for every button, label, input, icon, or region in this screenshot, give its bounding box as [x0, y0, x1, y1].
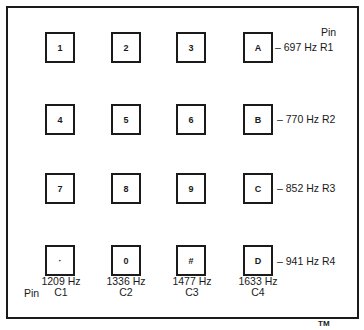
key-label: 1: [57, 43, 62, 53]
row-label-r1: – 697 Hz R1: [275, 42, 333, 53]
key-label: 2: [123, 43, 128, 53]
trademark: TM: [318, 319, 330, 328]
key-8: 8: [111, 173, 141, 204]
key-1: 1: [45, 32, 75, 63]
col-label-c3: 1477 Hz C3: [162, 276, 222, 298]
key-label: C: [255, 184, 262, 194]
row-label-r2: – 770 Hz R2: [277, 114, 335, 125]
key-label: 8: [123, 184, 128, 194]
key-3: 3: [176, 32, 206, 63]
key-label: D: [255, 256, 262, 266]
key-label: ·: [59, 256, 62, 266]
key-7: 7: [45, 173, 75, 204]
col-label-c1: 1209 Hz C1: [31, 276, 91, 298]
key-d: D: [243, 245, 273, 276]
key-label: 9: [188, 184, 193, 194]
key-2: 2: [111, 32, 141, 63]
col-pin: C1: [31, 287, 91, 298]
key-5: 5: [111, 104, 141, 135]
col-pin: C3: [162, 287, 222, 298]
key-label: 4: [57, 115, 62, 125]
key-4: 4: [45, 104, 75, 135]
col-pin: C4: [228, 287, 288, 298]
key-label: #: [188, 256, 193, 266]
key-label: A: [255, 43, 262, 53]
col-label-c4: 1633 Hz C4: [228, 276, 288, 298]
key-label: 0: [123, 256, 128, 266]
key-star: ·: [45, 245, 75, 276]
row-pin-header: Pin: [321, 27, 336, 38]
col-pin-header: Pin: [24, 288, 39, 299]
key-hash: #: [176, 245, 206, 276]
key-a: A: [243, 32, 273, 63]
row-label-r3: – 852 Hz R3: [277, 183, 335, 194]
key-label: 5: [123, 115, 128, 125]
key-b: B: [243, 104, 273, 135]
key-label: 6: [188, 115, 193, 125]
key-label: B: [255, 115, 262, 125]
key-0: 0: [111, 245, 141, 276]
key-9: 9: [176, 173, 206, 204]
key-c: C: [243, 173, 273, 204]
key-6: 6: [176, 104, 206, 135]
key-label: 7: [57, 184, 62, 194]
key-label: 3: [188, 43, 193, 53]
col-label-c2: 1336 Hz C2: [96, 276, 156, 298]
row-label-r4: – 941 Hz R4: [277, 256, 335, 267]
col-pin: C2: [96, 287, 156, 298]
